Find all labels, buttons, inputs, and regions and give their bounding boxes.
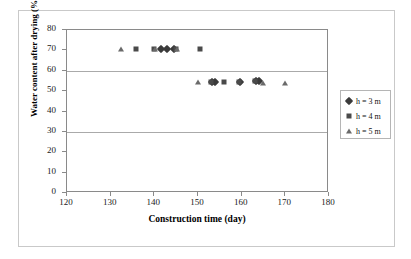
x-tick <box>197 192 198 196</box>
square-marker-icon <box>347 114 352 119</box>
data-point <box>282 80 288 85</box>
y-tick-label: 10 <box>12 167 56 176</box>
legend: h = 3 mh = 4 mh = 5 m <box>340 90 391 139</box>
x-tick-label: 160 <box>221 198 261 207</box>
data-point <box>260 80 266 85</box>
data-point <box>118 47 124 52</box>
x-tick <box>241 192 242 196</box>
data-point <box>222 79 227 84</box>
data-point <box>195 79 201 84</box>
y-tick-label: 0 <box>12 187 56 196</box>
data-point <box>133 47 138 52</box>
legend-item-2: h = 4 m <box>345 110 391 123</box>
data-point <box>252 79 257 84</box>
data-point <box>152 47 158 52</box>
legend-label: h = 5 m <box>356 126 381 137</box>
x-tick-label: 170 <box>264 198 304 207</box>
triangle-marker-icon <box>346 129 352 134</box>
gridline <box>67 71 327 72</box>
x-tick-label: 140 <box>133 198 173 207</box>
x-tick-label: 150 <box>177 198 217 207</box>
x-tick <box>66 192 67 196</box>
legend-item-3: h = 5 m <box>345 125 391 138</box>
data-point <box>237 80 242 85</box>
data-point <box>174 47 180 52</box>
legend-label: h = 4 m <box>356 111 381 122</box>
x-axis-title: Construction time (day) <box>66 214 328 224</box>
y-axis-title: Water content after drying (%) <box>29 0 39 132</box>
legend-label: h = 3 m <box>356 96 381 107</box>
x-tick <box>284 192 285 196</box>
data-point <box>198 47 203 52</box>
plot-area <box>66 29 328 192</box>
legend-item-1: h = 3 m <box>345 95 391 108</box>
data-point <box>209 79 214 84</box>
y-tick-label: 20 <box>12 146 56 155</box>
x-tick-label: 180 <box>308 198 348 207</box>
gridline <box>67 132 327 133</box>
x-tick-label: 130 <box>90 198 130 207</box>
x-tick <box>328 192 329 196</box>
figure: 01020304050607080 120130140150160170180 … <box>0 0 411 259</box>
x-tick <box>153 192 154 196</box>
diamond-marker-icon <box>345 97 353 105</box>
x-tick-label: 120 <box>46 198 86 207</box>
x-tick <box>110 192 111 196</box>
